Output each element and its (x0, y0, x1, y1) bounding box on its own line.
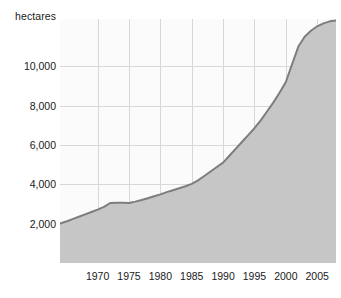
x-tick-label: 1995 (243, 270, 266, 282)
x-tick-label: 2005 (305, 270, 328, 282)
x-tick-label: 1970 (86, 270, 109, 282)
y-tick-label: 4,000 (2, 178, 56, 190)
x-tick-label: 2000 (274, 270, 297, 282)
x-tick-label: 1985 (180, 270, 203, 282)
y-tick-label: 10,000 (2, 60, 56, 72)
y-tick-label: 8,000 (2, 100, 56, 112)
y-tick-label: 2,000 (2, 218, 56, 230)
plot-area (60, 19, 336, 263)
x-tick-label: 1980 (149, 270, 172, 282)
x-tick-label: 1990 (211, 270, 234, 282)
y-axis-tick-labels: 2,0004,0006,0008,00010,000 (0, 0, 56, 298)
area-chart: hectares 2,0004,0006,0008,00010,000 1970… (0, 0, 341, 298)
x-tick-label: 1975 (117, 270, 140, 282)
y-tick-label: 6,000 (2, 139, 56, 151)
series-area-hectares (60, 19, 336, 263)
